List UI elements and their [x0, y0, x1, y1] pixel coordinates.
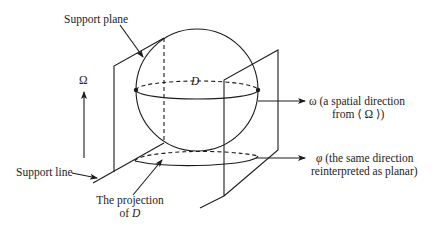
- d-label: D: [191, 75, 199, 88]
- right-support-line: [200, 196, 224, 208]
- projection-ellipse: [135, 151, 258, 165]
- phi-direction-line2: reinterpreted as planar): [311, 165, 418, 178]
- support-line-leader: [72, 173, 97, 178]
- projection-d-var: D: [132, 207, 140, 219]
- projection-of-text: of: [120, 207, 132, 219]
- phi-direction-text: (the same direction: [322, 152, 413, 164]
- phi-direction-line1: φ (the same direction: [311, 152, 418, 165]
- projection-leader: [133, 160, 162, 195]
- equator-right-point: [256, 88, 260, 92]
- sphere: [136, 29, 258, 151]
- support-line-label: Support line: [16, 166, 73, 179]
- omega-label: Ω: [79, 74, 88, 87]
- projection-label: The projection of D: [94, 194, 166, 220]
- omega-direction-label: ω (a spatial direction from ⟨ Ω ⟩): [309, 95, 405, 121]
- omega-direction-line1: ω (a spatial direction: [309, 95, 405, 108]
- projection-line1: The projection: [94, 194, 166, 207]
- phi-direction-label: φ (the same direction reinterpreted as p…: [311, 152, 418, 178]
- support-plane-leader: [120, 25, 143, 57]
- support-line: [93, 143, 164, 183]
- equator-left-point: [134, 88, 138, 92]
- right-support-plane: [224, 50, 278, 196]
- projection-line2: of D: [94, 207, 166, 220]
- support-plane-label: Support plane: [64, 13, 128, 26]
- omega-direction-line2: from ⟨ Ω ⟩): [309, 108, 405, 121]
- left-support-plane: [114, 38, 164, 172]
